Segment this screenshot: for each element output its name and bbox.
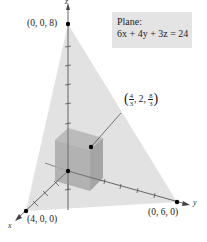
- box-corner-label: (43, 2, 83): [124, 91, 158, 107]
- x-intercept-label: (4, 0, 0): [27, 215, 57, 225]
- x-axis-label: x: [8, 221, 12, 230]
- z-axis-label: z: [65, 0, 68, 6]
- plane-title: Plane:: [117, 16, 187, 28]
- y-intercept-label: (0, 6, 0): [148, 208, 178, 218]
- y-axis-label: y: [193, 198, 197, 207]
- point-box-corner: [89, 145, 93, 149]
- close-paren: ): [153, 91, 158, 106]
- point-z-intercept: [66, 22, 70, 26]
- plane-equation: 6x + 4y + 3z = 24: [117, 28, 187, 40]
- plane-triangle: [26, 24, 177, 211]
- inscribed-box: [55, 128, 103, 191]
- point-y-intercept: [175, 200, 179, 204]
- y-value: , 2,: [134, 94, 148, 104]
- z-intercept-label: (0, 0, 8): [27, 19, 57, 29]
- y-axis-arrow-icon: [182, 201, 190, 206]
- point-origin: [66, 169, 70, 173]
- plane-equation-box: Plane: 6x + 4y + 3z = 24: [112, 12, 192, 48]
- point-x-intercept: [24, 209, 28, 213]
